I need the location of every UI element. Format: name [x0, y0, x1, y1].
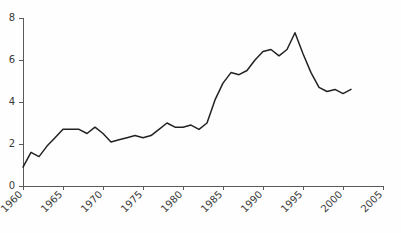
x-tick-label: 2005 [359, 189, 385, 215]
x-tick-label: 2000 [319, 189, 345, 215]
y-tick-label: 0 [9, 180, 15, 191]
line-chart: 02468 1960196519701975198019851990199520… [0, 0, 401, 233]
y-tick-label: 6 [9, 54, 15, 65]
data-line [23, 33, 351, 167]
x-tick-label: 1970 [79, 189, 105, 215]
y-tick-label: 8 [9, 12, 15, 23]
x-axis: 1960196519701975198019851990199520002005 [0, 186, 384, 214]
y-tick-label: 4 [9, 96, 15, 107]
data-series-group [23, 33, 351, 167]
y-tick-label: 2 [9, 138, 15, 149]
x-tick-label: 1960 [0, 189, 24, 215]
x-tick-label: 1990 [239, 189, 265, 215]
x-tick-label: 1965 [39, 189, 65, 215]
y-axis: 02468 [9, 12, 23, 191]
x-tick-label: 1980 [159, 189, 185, 215]
chart-canvas: 02468 1960196519701975198019851990199520… [0, 0, 401, 233]
x-tick-label: 1985 [199, 189, 225, 215]
x-tick-label: 1995 [279, 189, 305, 215]
x-tick-label: 1975 [119, 189, 145, 215]
